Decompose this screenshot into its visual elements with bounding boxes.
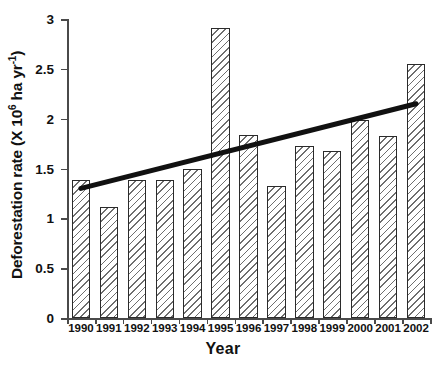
bar-2002 bbox=[407, 64, 425, 318]
y-tick-label-3: 3 bbox=[46, 12, 54, 27]
y-tick-1.5 bbox=[61, 169, 67, 171]
y-tick-label-2.5: 2.5 bbox=[35, 61, 54, 76]
x-axis-tick-labels: 1990199119921993199419951996199719981999… bbox=[67, 322, 430, 340]
bar-1997 bbox=[267, 186, 285, 318]
y-tick-1 bbox=[61, 218, 67, 220]
x-tick-label-1999: 1999 bbox=[319, 322, 345, 334]
y-tick-label-0.5: 0.5 bbox=[35, 261, 54, 276]
bar-1994 bbox=[183, 169, 201, 319]
x-tick-label-1997: 1997 bbox=[264, 322, 290, 334]
y-tick-label-2: 2 bbox=[46, 111, 54, 126]
x-tick-label-1994: 1994 bbox=[180, 322, 206, 334]
y-tick-0.5 bbox=[61, 268, 67, 270]
x-tick-label-1993: 1993 bbox=[152, 322, 178, 334]
y-tick-3 bbox=[61, 19, 67, 21]
bar-1990 bbox=[72, 180, 90, 318]
x-tick-label-1996: 1996 bbox=[236, 322, 262, 334]
deforestation-rate-bar-chart: Deforestation rate (X 106 ha yr-1) 00.51… bbox=[0, 0, 446, 371]
bar-1991 bbox=[100, 207, 118, 318]
bar-1998 bbox=[295, 146, 313, 318]
x-tick-label-1991: 1991 bbox=[96, 322, 122, 334]
y-tick-label-1: 1 bbox=[46, 211, 54, 226]
x-tick-label-1990: 1990 bbox=[68, 322, 94, 334]
plot-area bbox=[67, 19, 430, 318]
x-axis-title: Year bbox=[0, 340, 446, 358]
bar-1995 bbox=[211, 28, 229, 318]
y-tick-label-1.5: 1.5 bbox=[35, 161, 54, 176]
bar-1992 bbox=[128, 180, 146, 318]
x-tick-label-2001: 2001 bbox=[375, 322, 401, 334]
y-axis-tick-labels: 00.511.522.53 bbox=[0, 19, 64, 318]
x-tick-label-1992: 1992 bbox=[124, 322, 150, 334]
x-tick-13 bbox=[430, 318, 432, 324]
x-tick-label-2002: 2002 bbox=[403, 322, 429, 334]
x-tick-label-2000: 2000 bbox=[347, 322, 373, 334]
bar-1999 bbox=[323, 151, 341, 318]
y-tick-2.5 bbox=[61, 69, 67, 71]
y-axis-line bbox=[67, 19, 69, 318]
bar-2000 bbox=[351, 120, 369, 318]
y-tick-label-0: 0 bbox=[46, 311, 54, 326]
x-tick-label-1998: 1998 bbox=[292, 322, 318, 334]
bar-1993 bbox=[156, 180, 174, 318]
bar-2001 bbox=[379, 136, 397, 318]
y-tick-2 bbox=[61, 119, 67, 121]
bar-1996 bbox=[239, 135, 257, 318]
x-tick-label-1995: 1995 bbox=[208, 322, 234, 334]
